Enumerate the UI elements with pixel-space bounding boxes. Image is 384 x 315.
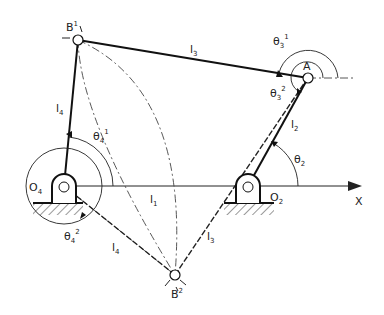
ground-O2 [224,174,274,215]
label-A: A [303,60,311,73]
label-theta4-1: θ41 [93,128,109,145]
label-l4-bottom: l4 [112,241,120,256]
label-O2: O2 [270,191,283,206]
label-theta2: θ2 [294,153,305,168]
label-l3-bottom: l3 [207,230,215,245]
label-l4-top: l4 [56,102,64,117]
label-l1: l1 [150,193,158,208]
label-theta3-2: θ32 [270,85,286,102]
label-theta4-2: θ42 [64,228,80,245]
label-O4: O4 [29,181,43,196]
label-B2: B2 [171,287,183,301]
x-axis [64,181,362,191]
link-l4 [64,40,78,186]
label-l3-top: l3 [190,43,198,58]
linkage-diagram: B1 A O4 O2 B2 X l1 l2 l3 l3 l4 l4 θ41 θ4… [0,0,384,315]
label-l2: l2 [291,118,299,133]
label-x-axis: X [355,195,363,208]
joint-A [303,73,313,83]
label-theta3-1: θ31 [273,33,289,50]
label-B1: B1 [66,20,78,34]
links-position-2 [64,82,305,275]
links-position-1 [64,40,308,186]
theta4-1-arc [69,137,113,186]
